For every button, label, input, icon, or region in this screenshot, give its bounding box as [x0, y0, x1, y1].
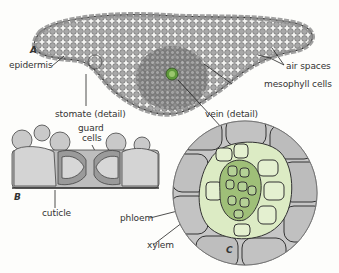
panel-label-c: C — [226, 245, 233, 255]
vein-detail-c — [170, 118, 324, 268]
label-xylem: xylem — [147, 240, 174, 250]
leaf-section-a — [34, 15, 312, 115]
label-stomate-detail: stomate (detail) — [55, 109, 126, 119]
label-guard-cells-1: guard — [78, 123, 104, 133]
label-epidermis: epidermis — [9, 60, 53, 70]
leaf-cross-section-figure — [0, 0, 339, 273]
label-vein-detail: vein (detail) — [205, 109, 258, 119]
panel-label-b: B — [14, 192, 21, 202]
label-cuticle: cuticle — [42, 208, 71, 218]
label-guard-cells-2: cells — [82, 133, 102, 143]
panel-label-a: A — [30, 45, 37, 55]
label-phloem: phloem — [120, 213, 153, 223]
label-mesophyll-cells: mesophyll cells — [264, 79, 332, 89]
label-air-spaces: air spaces — [286, 61, 331, 71]
